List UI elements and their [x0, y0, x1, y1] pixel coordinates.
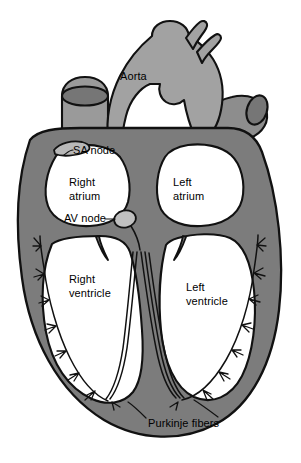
label-av-node: AV node: [64, 212, 106, 225]
label-right-atrium-line1: Right: [69, 175, 100, 189]
label-left-atrium-line2: atrium: [173, 189, 204, 203]
label-right-atrium-line2: atrium: [69, 189, 100, 203]
label-right-ventricle-line1: Right: [69, 272, 111, 286]
label-sa-node: SA node: [73, 144, 115, 157]
label-aorta: Aorta: [120, 70, 147, 83]
right-ventricle-lumen: [43, 236, 143, 403]
label-right-ventricle: Right ventricle: [69, 272, 111, 300]
label-purkinje-fibers: Purkinje fibers: [148, 417, 219, 430]
label-right-ventricle-line2: ventricle: [69, 286, 111, 300]
heart-conduction-diagram: Aorta SA node Right atrium Left atrium A…: [0, 0, 301, 463]
great-vessels-group: [62, 21, 271, 142]
label-left-atrium-line1: Left: [173, 175, 204, 189]
label-right-atrium: Right atrium: [69, 175, 100, 203]
label-left-ventricle-line1: Left: [186, 280, 228, 294]
label-left-atrium: Left atrium: [173, 175, 204, 203]
label-left-ventricle: Left ventricle: [186, 280, 228, 308]
label-left-ventricle-line2: ventricle: [186, 294, 228, 308]
superior-vena-cava-rim: [62, 87, 108, 106]
heart-illustration: [0, 0, 301, 463]
